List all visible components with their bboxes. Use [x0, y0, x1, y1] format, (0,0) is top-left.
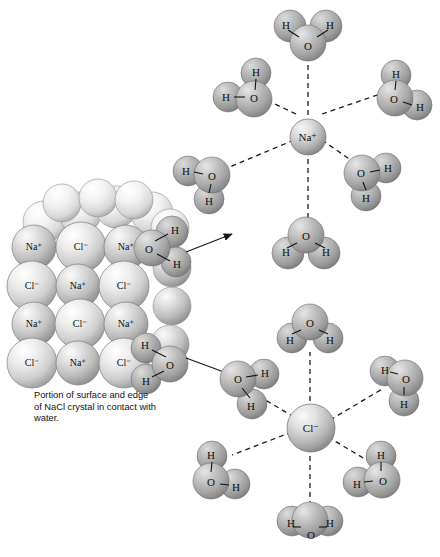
water-molecule-bottom: [277, 502, 343, 538]
water-molecule-upper-left: [220, 359, 279, 419]
diagram-graphics: [0, 0, 440, 557]
hydrated-sodium-ion: [173, 10, 432, 269]
figure-canvas: Na⁺ Cl⁻ Na⁺ Cl⁻ Na⁺ Cl⁻ Na⁺ Cl⁻ Na⁺ Cl⁻ …: [0, 0, 440, 557]
crystal-ion-chloride: [7, 338, 57, 388]
water-molecule-bottom: [272, 217, 340, 269]
figure-caption: Portion of surface and edge of NaCl crys…: [34, 390, 158, 425]
water-molecule-left: [173, 156, 230, 214]
water-molecule-lower-right: [343, 441, 400, 498]
crystal-ion-sodium: [56, 341, 100, 385]
chloride-ion-center: [287, 404, 335, 452]
hydrated-chloride-ion: [193, 304, 423, 538]
water-molecule-top: [277, 304, 343, 353]
water-molecule-upper-right: [370, 356, 423, 416]
arrow-to-sodium-complex: [186, 234, 232, 252]
water-molecule-lower-left: [193, 441, 250, 499]
water-molecule-upper-right: [377, 60, 432, 120]
water-molecule-upper-left: [213, 58, 272, 117]
sodium-ion-center: [290, 119, 326, 155]
nacl-crystal-lattice: [7, 179, 191, 394]
water-molecule-lower-right: [344, 153, 401, 211]
crystal-row-4: [7, 338, 149, 388]
water-molecule-top: [274, 10, 342, 61]
